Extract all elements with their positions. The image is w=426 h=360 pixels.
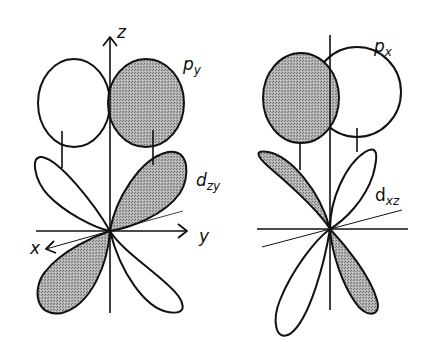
dzy-lobe-lower-left <box>38 231 110 314</box>
py-lobe-left <box>38 59 110 147</box>
py-lobe-right <box>108 59 184 147</box>
dxz-lobe-upper-right <box>330 149 376 229</box>
px-lobe-left <box>263 53 339 143</box>
orbital-overlap-diagram: z y x py dzy px dxz <box>0 0 426 360</box>
dxz-label: dxz <box>375 187 399 207</box>
z-axis-label: z <box>117 24 126 41</box>
dxz-lobe-lower-left <box>276 229 330 336</box>
dxz-lobe-lower-right <box>330 229 378 314</box>
dxz-lobe-upper-left <box>258 152 330 229</box>
y-axis-label: y <box>199 228 209 245</box>
px-label: px <box>374 38 392 58</box>
dzy-label: dzy <box>196 172 220 192</box>
dzy-lobe-lower-right <box>110 231 183 313</box>
left-diagram <box>35 37 187 314</box>
x-axis-label: x <box>30 240 40 257</box>
py-label: py <box>183 56 201 76</box>
dzy-lobe-upper-left <box>35 157 110 231</box>
dzy-lobe-upper-right <box>110 152 186 231</box>
